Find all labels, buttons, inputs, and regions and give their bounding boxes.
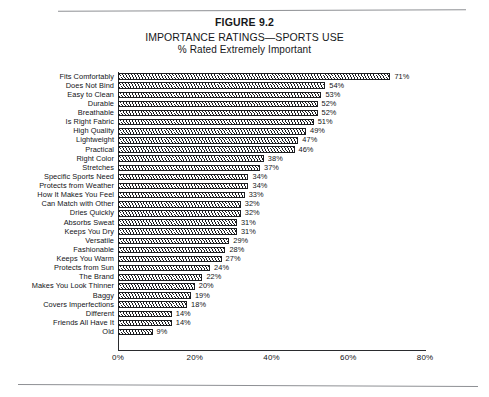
category-label: Keeps You Warm [56, 255, 114, 263]
bar-value-label: 51% [318, 118, 333, 126]
bar-with-value: 18% [118, 300, 206, 309]
bar-row: Old9% [0, 328, 489, 337]
bar-with-value: 52% [118, 109, 337, 118]
bar-with-value: 9% [118, 328, 167, 337]
value-axis-line [118, 350, 426, 351]
bar [118, 82, 325, 88]
bar-row: Keeps You Dry31% [0, 227, 489, 236]
bar-with-value: 49% [118, 127, 325, 136]
bar-value-label: 31% [241, 228, 256, 236]
bar [118, 165, 260, 171]
page-rule-bottom [18, 384, 478, 387]
category-label: Can Match with Other [42, 200, 114, 208]
bar-value-label: 34% [252, 182, 267, 190]
bar-value-label: 46% [299, 146, 314, 154]
category-label: Breathable [78, 109, 114, 117]
bar-with-value: 14% [118, 318, 191, 327]
category-label: Practical [85, 146, 114, 154]
category-label: Protects from Sun [54, 264, 114, 272]
bar-value-label: 20% [199, 282, 214, 290]
category-label: Durable [88, 100, 114, 108]
category-label: Absorbs Sweat [64, 219, 114, 227]
category-label: Protects from Weather [39, 182, 114, 190]
bar-chart: Fits Comfortably71%Does Not Bind54%Easy … [0, 70, 489, 360]
bar [118, 274, 202, 280]
bar-value-label: 32% [245, 200, 260, 208]
bar-value-label: 52% [322, 109, 337, 117]
bar-with-value: 32% [118, 209, 260, 218]
bar [118, 292, 191, 298]
category-label: Fits Comfortably [59, 73, 114, 81]
category-label: Right Color [76, 155, 114, 163]
bar [118, 92, 321, 98]
bar [118, 146, 295, 152]
bar [118, 174, 248, 180]
bar [118, 101, 318, 107]
bar-row: Right Color38% [0, 154, 489, 163]
bar-row: Easy to Clean53% [0, 90, 489, 99]
bar [118, 192, 245, 198]
category-label: Friends All Have It [53, 319, 114, 327]
bar [118, 320, 172, 326]
bar-row: Friends All Have It14% [0, 318, 489, 327]
bar-with-value: 29% [118, 236, 248, 245]
bar-with-value: 52% [118, 99, 337, 108]
x-axis-tick: 40% [263, 353, 279, 363]
bar [118, 301, 187, 307]
bar-value-label: 38% [268, 155, 283, 163]
page-rule-top [58, 9, 466, 11]
bar [118, 247, 225, 253]
figure-title: IMPORTANCE RATINGS—SPORTS USE [0, 31, 489, 44]
bar [118, 283, 195, 289]
category-label: Covers Imperfections [43, 301, 114, 309]
bar-with-value: 54% [118, 81, 344, 90]
bar-value-label: 28% [229, 246, 244, 254]
bar-value-label: 71% [394, 73, 409, 81]
bar-with-value: 34% [118, 172, 267, 181]
bar [118, 110, 318, 116]
bar-row: Makes You Look Thinner20% [0, 282, 489, 291]
bar-value-label: 14% [176, 310, 191, 318]
figure-number: FIGURE 9.2 [0, 16, 489, 29]
category-label: The Brand [79, 273, 114, 281]
bar [118, 73, 390, 79]
bar [118, 155, 264, 161]
category-label: Easy to Clean [67, 91, 114, 99]
bar-row: Lightweight47% [0, 136, 489, 145]
bar-with-value: 14% [118, 309, 191, 318]
bar-row: Durable52% [0, 99, 489, 108]
bar [118, 256, 222, 262]
bar-value-label: 9% [157, 328, 168, 336]
x-axis-tick: 20% [187, 353, 203, 363]
category-label: Dries Quickly [70, 209, 114, 217]
x-axis-tick: 60% [340, 353, 356, 363]
bar [118, 137, 298, 143]
bar-value-label: 54% [329, 82, 344, 90]
category-label: Stretches [82, 164, 114, 172]
bar [118, 201, 241, 207]
bar-with-value: 46% [118, 145, 313, 154]
category-label: Different [86, 310, 114, 318]
bar-rows: Fits Comfortably71%Does Not Bind54%Easy … [0, 72, 489, 337]
bar-value-label: 47% [302, 136, 317, 144]
bar-value-label: 18% [191, 301, 206, 309]
bar-row: Practical46% [0, 145, 489, 154]
bar-value-label: 33% [249, 191, 264, 199]
bar-value-label: 34% [252, 173, 267, 181]
x-axis-tick: 80% [417, 353, 433, 363]
bar-row: High Quality49% [0, 127, 489, 136]
bar-value-label: 32% [245, 209, 260, 217]
bar-value-label: 27% [226, 255, 241, 263]
category-label: Makes You Look Thinner [32, 282, 114, 290]
bar-value-label: 24% [214, 264, 229, 272]
bar-value-label: 49% [310, 127, 325, 135]
bar-value-label: 29% [233, 237, 248, 245]
category-label: Is Right Fabric [66, 118, 114, 126]
bar-with-value: 31% [118, 227, 256, 236]
category-label: High Quality [73, 127, 114, 135]
bar-with-value: 51% [118, 118, 333, 127]
bar-value-label: 52% [322, 100, 337, 108]
bar-value-label: 14% [176, 319, 191, 327]
bar-with-value: 37% [118, 163, 279, 172]
bar-with-value: 53% [118, 90, 340, 99]
